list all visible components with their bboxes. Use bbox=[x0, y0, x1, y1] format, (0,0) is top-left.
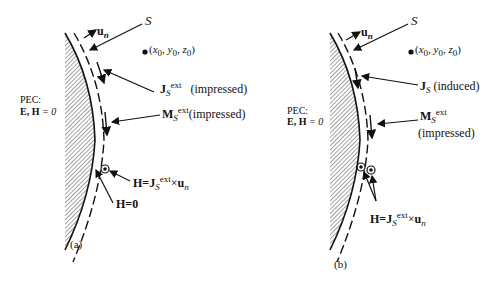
h-out-dot-b2 bbox=[369, 168, 373, 172]
normal-sub-b: n bbox=[368, 31, 373, 41]
h-out-dot-a bbox=[103, 167, 107, 171]
h-eq-label-a: H=JSext×un bbox=[133, 177, 189, 189]
pec-label-a: PEC: bbox=[20, 95, 41, 105]
normal-symbol-a: u bbox=[97, 24, 104, 38]
m-sup-b: ext bbox=[436, 107, 447, 117]
normal-sub-a: n bbox=[104, 30, 109, 40]
j-pointer-b bbox=[362, 76, 418, 85]
h-eq-rhs-sub-a: n bbox=[184, 182, 189, 192]
z-sub: 0 bbox=[187, 48, 192, 58]
y-sub: 0 bbox=[172, 48, 177, 58]
m-pointer-b bbox=[378, 120, 418, 124]
m-label-b: MSext bbox=[420, 110, 447, 122]
pec-value-a: = 0 bbox=[42, 106, 56, 117]
normal-arrow-a bbox=[84, 30, 96, 38]
y-sub-b: 0 bbox=[438, 48, 443, 58]
h-eq-lhs-a: H=J bbox=[133, 176, 155, 190]
x-sub: 0 bbox=[158, 48, 163, 58]
normal-label-a: un bbox=[97, 25, 109, 37]
observation-point-a bbox=[142, 49, 147, 54]
m-arrow-a bbox=[105, 112, 107, 135]
surface-label-b: S bbox=[411, 14, 418, 27]
pec-condition-b: E, H = 0 bbox=[287, 117, 323, 127]
caption-b: (b) bbox=[334, 259, 347, 270]
m-pointer-a bbox=[112, 115, 160, 122]
h-eq-pointer-a bbox=[110, 171, 130, 181]
h-zero-label-a: H=0 bbox=[116, 198, 138, 210]
normal-label-b: un bbox=[361, 26, 373, 38]
j-pointer-a bbox=[104, 70, 154, 92]
pec-label-b: PEC: bbox=[287, 106, 308, 116]
j-sup-a: ext bbox=[171, 80, 182, 90]
m-symbol-b: M bbox=[420, 109, 431, 123]
h-eq-rhs-sub-b: n bbox=[421, 218, 426, 228]
h-eq-label-b: H=JSext×un bbox=[370, 213, 426, 225]
m-arrow-b bbox=[370, 115, 372, 138]
caption-a: (a) bbox=[70, 239, 82, 250]
normal-arrow-b bbox=[346, 32, 360, 40]
point-label-a: (x0, y0, z0) bbox=[149, 44, 195, 55]
z-sub-b: 0 bbox=[453, 48, 458, 58]
point-label-b: (x0, y0, z0) bbox=[415, 44, 461, 55]
x-sub-b: 0 bbox=[424, 48, 429, 58]
h-eq-sup-b: ext bbox=[397, 210, 408, 220]
j-label-a: JSext (impressed) bbox=[160, 83, 247, 95]
j-arrow-b bbox=[355, 68, 358, 88]
surface-label-a: S bbox=[145, 14, 152, 27]
j-sub-b: S bbox=[426, 85, 431, 95]
h-zero-pointer-a bbox=[96, 170, 113, 203]
h-eq-lhs-b: H=J bbox=[370, 212, 392, 226]
m-sup-a: ext bbox=[178, 105, 189, 115]
h-zero-text-a: H=0 bbox=[116, 197, 138, 211]
h-eq-sup-a: ext bbox=[160, 174, 171, 184]
j-label-b: JS (induced) bbox=[420, 80, 479, 92]
pec-fields-a: E, H bbox=[20, 106, 39, 117]
observation-point-b bbox=[408, 49, 413, 54]
normal-symbol-b: u bbox=[361, 25, 368, 39]
j-note-b: (induced) bbox=[434, 79, 480, 93]
panel-b bbox=[330, 24, 418, 262]
j-arrow-a bbox=[97, 62, 104, 83]
pec-value-b: = 0 bbox=[309, 116, 323, 127]
j-note-a: (impressed) bbox=[191, 82, 248, 96]
panel-a bbox=[65, 24, 160, 262]
m-note-b: (impressed) bbox=[418, 127, 475, 139]
m-label-a: MSext(impressed) bbox=[162, 108, 245, 120]
pec-fields-b: E, H bbox=[287, 116, 306, 127]
h-out-dot-b1 bbox=[359, 165, 363, 169]
m-symbol-a: M bbox=[162, 107, 173, 121]
pec-condition-a: E, H = 0 bbox=[20, 107, 56, 117]
m-note-a: (impressed) bbox=[189, 107, 246, 121]
